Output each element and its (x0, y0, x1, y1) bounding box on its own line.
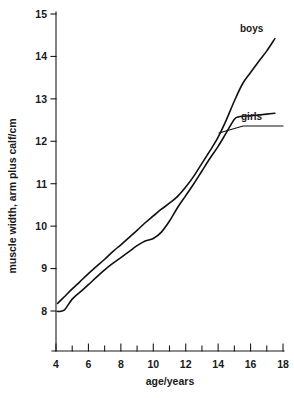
y-tick-label-8: 8 (41, 305, 47, 317)
x-tick-label-6: 6 (86, 358, 92, 370)
y-axis-title: muscle width, arm plus calf/cm (6, 118, 18, 273)
x-axis-tick-labels: 4681012141618 (53, 358, 289, 370)
x-tick-label-18: 18 (277, 358, 289, 370)
line-chart-svg: 89101112131415 4681012141618 boys girls … (0, 0, 294, 398)
series-label-boys: boys (240, 23, 264, 34)
x-tick-label-12: 12 (180, 358, 192, 370)
y-axis-ticks (51, 14, 56, 311)
y-tick-label-14: 14 (35, 50, 47, 62)
x-axis-minor-ticks (72, 346, 267, 351)
y-tick-label-15: 15 (35, 8, 47, 20)
y-axis-tick-labels: 89101112131415 (35, 8, 47, 317)
x-tick-label-16: 16 (245, 358, 257, 370)
data-series-group (58, 39, 275, 312)
x-tick-label-14: 14 (212, 358, 224, 370)
y-tick-label-11: 11 (36, 178, 47, 190)
x-tick-label-4: 4 (53, 358, 59, 370)
x-tick-label-10: 10 (147, 358, 159, 370)
series-curve-girls (58, 113, 275, 311)
series-curve-boys (58, 39, 275, 304)
y-tick-label-13: 13 (35, 93, 47, 105)
x-axis-title: age/years (146, 375, 195, 387)
series-label-girls: girls (241, 111, 263, 122)
chart-figure: 89101112131415 4681012141618 boys girls … (0, 0, 294, 398)
y-tick-label-10: 10 (35, 220, 47, 232)
y-tick-label-9: 9 (41, 262, 47, 274)
x-tick-label-8: 8 (118, 358, 124, 370)
y-tick-label-12: 12 (35, 135, 47, 147)
